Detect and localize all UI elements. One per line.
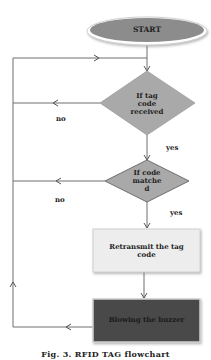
yes-label-2: yes (170, 208, 182, 217)
process2-label: Blowing the buzzer (95, 312, 198, 328)
no-label-2: no (55, 195, 65, 204)
process1-label: Retransmit the tag code (95, 240, 198, 262)
decision2-line3: d (145, 185, 150, 193)
start-label: START (107, 22, 187, 38)
figure-caption: Fig. 3. RFID TAG flowchart (0, 349, 211, 359)
decision2-label: If code matche d (122, 165, 172, 197)
flowchart-canvas (0, 0, 211, 360)
process1-line2: code (137, 251, 155, 259)
decision1-label: If tag code received (117, 86, 177, 122)
no-label-1: no (56, 114, 66, 123)
decision1-line3: received (131, 108, 164, 116)
yes-label-1: yes (166, 143, 178, 152)
